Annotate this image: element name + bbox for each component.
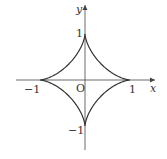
x-tick-neg1: −1 bbox=[24, 83, 40, 96]
y-tick-neg1: −1 bbox=[68, 124, 84, 137]
x-tick-1: 1 bbox=[129, 83, 136, 96]
y-axis-label: y bbox=[75, 3, 83, 16]
astroid-diagram: x y O −1 1 1 −1 bbox=[0, 0, 167, 159]
origin-label: O bbox=[76, 82, 85, 95]
y-tick-1: 1 bbox=[76, 27, 83, 40]
x-axis-label: x bbox=[150, 82, 157, 95]
